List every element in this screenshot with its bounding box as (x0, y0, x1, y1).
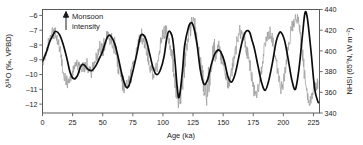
left-tick-label: –12 (26, 100, 38, 109)
x-tick-label: 75 (129, 118, 137, 127)
right-tick-label: 420 (325, 26, 337, 35)
speleothem-insolation-chart: –12–11–10–9–8–7–6 340360380400420440 025… (0, 0, 363, 145)
left-tick-label: –10 (26, 70, 38, 79)
x-tick-label: 225 (307, 118, 319, 127)
right-tick-label: 340 (325, 109, 337, 118)
x-tick-label: 100 (157, 118, 169, 127)
left-axis-title: δ¹⁸O (‰, VPBD) (4, 34, 13, 88)
x-tick-label: 150 (217, 118, 229, 127)
x-tick-label: 25 (69, 118, 77, 127)
right-tick-label: 360 (325, 88, 337, 97)
x-tick-label: 0 (41, 118, 45, 127)
annotation-line-1: Monsoon (72, 12, 103, 21)
left-tick-label: –9 (30, 55, 38, 64)
right-tick-label: 400 (325, 47, 337, 56)
left-tick-label: –6 (30, 11, 38, 20)
x-tick-label: 50 (99, 118, 107, 127)
right-axis-title: NHSI (65°N, W m⁻²) (345, 28, 354, 95)
left-tick-label: –7 (30, 26, 38, 35)
x-axis-title: Age (ka) (167, 131, 195, 140)
left-tick-label: –8 (30, 41, 38, 50)
right-tick-label: 380 (325, 67, 337, 76)
x-tick-label: 125 (187, 118, 199, 127)
x-tick-label: 175 (247, 118, 259, 127)
left-tick-label: –11 (26, 85, 37, 94)
right-tick-label: 440 (325, 5, 337, 14)
annotation-line-2: intensity (72, 22, 100, 31)
x-tick-label: 200 (277, 118, 289, 127)
figure-container: –12–11–10–9–8–7–6 340360380400420440 025… (0, 0, 363, 145)
